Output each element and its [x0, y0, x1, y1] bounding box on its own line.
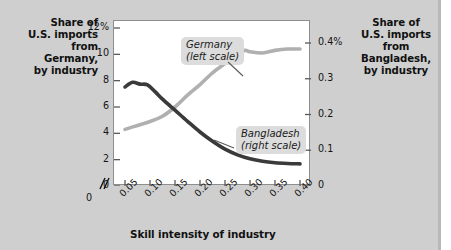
left-tick-label: 0 [65, 179, 109, 190]
heading-line: Share of [350, 17, 442, 29]
right-axis-title: Share ofU.S. importsfromBangladesh,by in… [350, 17, 442, 77]
right-tick-label: 0.2 [318, 108, 333, 119]
heading-line: by industry [350, 65, 442, 77]
callout-germany: Germany (left scale) [181, 37, 244, 65]
x-tick-label-zero: 0 [86, 192, 92, 203]
left-tick-label: 2 [65, 153, 109, 164]
left-tick-label: 4 [65, 126, 109, 137]
callout-bangladesh-scale: (right scale) [241, 140, 301, 152]
right-tick-label: 0 [318, 179, 324, 190]
callout-germany-name: Germany [186, 39, 239, 51]
left-tick-label: 12% [65, 21, 109, 32]
right-axis-ticks [305, 43, 311, 186]
callout-germany-scale: (left scale) [186, 51, 239, 63]
right-tick-label: 0.1 [318, 143, 333, 154]
left-tick-label: 6 [65, 100, 109, 111]
right-tick-label: 0.3 [318, 72, 333, 83]
heading-line: from [350, 41, 442, 53]
heading-line: Bangladesh, [350, 53, 442, 65]
left-tick-label: 8 [65, 74, 109, 85]
callout-bangladesh: Bangladesh (right scale) [236, 126, 306, 154]
x-axis-title: Skill intensity of industry [130, 228, 380, 240]
figure-root: Share ofU.S. importsfromGermany,by indus… [0, 0, 451, 250]
callout-bangladesh-name: Bangladesh [241, 128, 301, 140]
right-tick-label: 0.4% [318, 36, 342, 47]
heading-line: U.S. imports [350, 29, 442, 41]
left-tick-label: 10 [65, 47, 109, 58]
left-axis-ticks [114, 28, 120, 186]
